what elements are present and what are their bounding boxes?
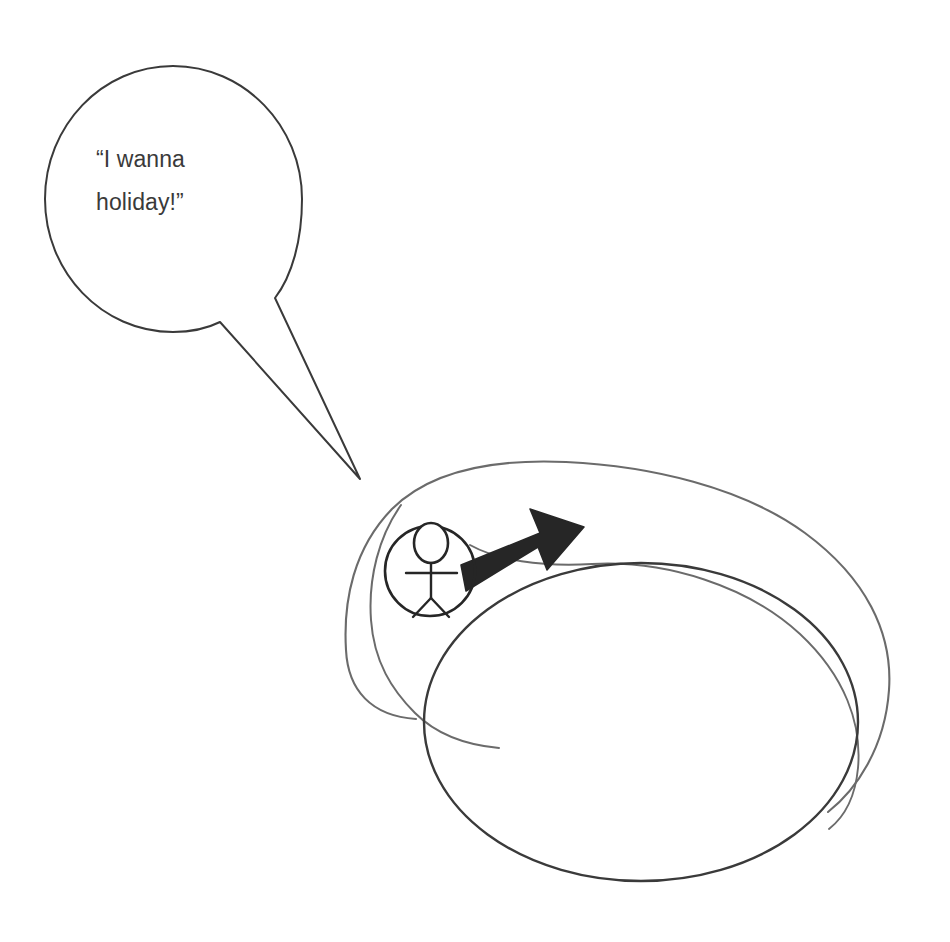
stick-figure-head-icon (414, 523, 448, 563)
speech-bubble[interactable] (45, 66, 360, 479)
swirl-band-sweep (470, 545, 859, 829)
speech-bubble-outline (45, 66, 360, 479)
swirl-outer-curve (346, 462, 890, 812)
inner-ellipse (424, 563, 858, 881)
diagram-canvas: “I wanna holiday!” (0, 0, 950, 942)
speech-bubble-text: “I wanna holiday!” (96, 138, 286, 223)
swirl-outline (346, 462, 890, 829)
